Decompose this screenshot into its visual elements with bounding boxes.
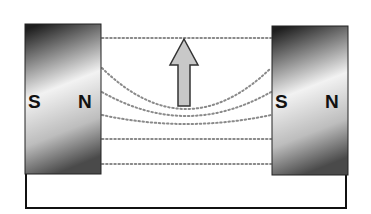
left-magnet-south-label: S [28,91,41,112]
magnet-diagram: S N S N [0,0,371,214]
force-arrow-up-icon [170,39,198,106]
right-magnet: S N [272,26,348,175]
wire-loop [26,174,346,208]
field-line-4 [102,115,271,124]
right-magnet-south-label: S [275,91,288,112]
right-magnet-north-label: N [325,91,339,112]
left-magnet-north-label: N [78,91,92,112]
left-magnet: S N [25,24,101,174]
